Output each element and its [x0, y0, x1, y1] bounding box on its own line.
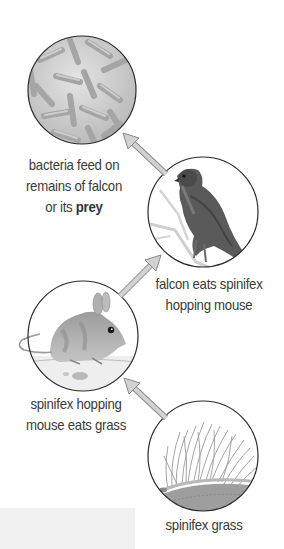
label-bacteria-line-3: or its prey [12, 196, 135, 217]
label-mouse: spinifex hopping mouse eats grass [14, 393, 137, 435]
label-falcon-line-1: falcon eats spinifex [143, 273, 275, 294]
label-bacteria-prefix: or its [45, 198, 75, 215]
label-mouse-line-1: spinifex hopping [14, 393, 137, 414]
label-bacteria: bacteria feed on remains of falcon or it… [12, 154, 135, 217]
label-bacteria-line-2: remains of falcon [12, 175, 135, 196]
label-falcon-line-2: hopping mouse [143, 294, 275, 315]
label-mouse-line-2: mouse eats grass [14, 414, 137, 435]
food-chain-diagram: bacteria feed on remains of falcon or it… [0, 0, 284, 549]
prey-keyword: prey [76, 198, 103, 215]
label-falcon: falcon eats spinifex hopping mouse [143, 273, 275, 315]
mouse-icon [19, 281, 138, 396]
label-grass: spinifex grass [151, 514, 257, 535]
label-bacteria-line-1: bacteria feed on [12, 154, 135, 175]
bacteria-icon [28, 36, 136, 146]
label-grass-line-1: spinifex grass [151, 514, 257, 535]
